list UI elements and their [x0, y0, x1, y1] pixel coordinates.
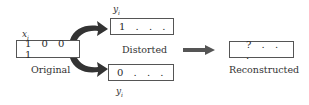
distorted-bottom-var-label: yi	[116, 86, 123, 98]
distorted-caption: Distorted	[122, 44, 167, 55]
distorted-top-box: 1 . . .	[110, 18, 174, 35]
original-caption: Original	[31, 64, 70, 75]
original-box: 1 0 0 1	[16, 40, 80, 58]
distorted-bottom-box: 0 . . .	[108, 64, 174, 81]
distorted-top-var-label: yi	[113, 4, 120, 16]
reconstructed-box: ? . . .	[229, 41, 294, 58]
right-arrow-icon	[183, 45, 215, 55]
reconstructed-caption: Reconstructed	[229, 64, 299, 75]
